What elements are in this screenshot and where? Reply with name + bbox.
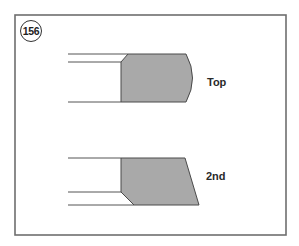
second-ring-label: 2nd [206, 170, 226, 182]
figure-number: 156 [23, 25, 40, 37]
top-ring-profile [121, 54, 193, 102]
top-ring-label: Top [207, 76, 226, 88]
figure-number-badge: 156 [20, 20, 42, 42]
second-ring-profile [121, 158, 199, 205]
top-ring-groove [68, 54, 128, 102]
diagram-canvas [0, 0, 299, 246]
